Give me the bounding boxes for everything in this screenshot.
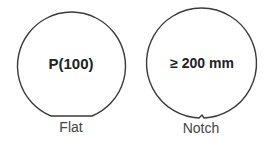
notch-caption: Notch <box>171 120 231 136</box>
notch-wafer-label: ≥ 200 mm <box>162 55 242 71</box>
flat-caption: Flat <box>41 119 101 135</box>
flat-wafer-label: P(100) <box>41 55 101 72</box>
